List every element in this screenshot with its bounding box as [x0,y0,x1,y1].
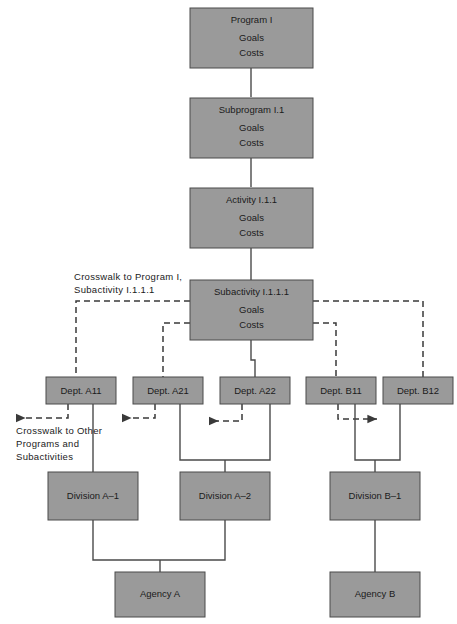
annotation-crosswalk-bottom-line3: Subactivities [16,451,73,462]
node-agency-a[interactable]: Agency A [115,572,205,617]
annotation-crosswalk-bottom-line1: Crosswalk to Other [16,425,102,436]
crosswalk-link-b12 [313,301,423,377]
annotation-crosswalk-top-line2: Subactivity I.1.1.1 [74,284,155,295]
node-division-b1-title: Division B–1 [349,490,402,501]
node-activity-title: Activity I.1.1 [226,194,277,205]
node-agency-a-title: Agency A [140,588,181,599]
node-dept-a21[interactable]: Dept. A21 [133,377,203,404]
node-dept-b11-title: Dept. B11 [320,385,362,396]
crosswalk-link-a11 [76,301,190,377]
node-subprogram-title: Subprogram I.1 [219,104,284,115]
node-subactivity-goals: Goals [239,304,264,315]
crosswalk-arrow-out-b11 [338,404,377,419]
link-subactivity-to-a22 [251,340,255,377]
annotation-crosswalk-top-line1: Crosswalk to Program I, [74,271,182,282]
node-program-goals: Goals [239,32,264,43]
node-dept-a21-title: Dept. A21 [147,385,189,396]
node-program-costs: Costs [239,47,264,58]
node-division-a1[interactable]: Division A–1 [48,472,138,520]
program-structure-diagram: Program I Goals Costs Subprogram I.1 Goa… [0,0,457,624]
link-b11-to-division-b1 [355,404,375,460]
link-division-a1-to-agency-a [93,520,160,560]
node-dept-b11[interactable]: Dept. B11 [306,377,376,404]
link-b12-to-division-b1 [375,404,400,460]
node-activity[interactable]: Activity I.1.1 Goals Costs [190,188,313,248]
node-subactivity-title: Subactivity I.1.1.1 [214,286,289,297]
node-agency-b[interactable]: Agency B [330,572,420,617]
link-a21-to-division-a2 [180,404,225,460]
node-division-a1-title: Division A–1 [67,490,119,501]
node-dept-a22[interactable]: Dept. A22 [220,377,290,404]
node-activity-goals: Goals [239,212,264,223]
link-a22-to-division-a2 [225,404,270,460]
node-dept-b12[interactable]: Dept. B12 [383,377,453,404]
node-program-title: Program I [231,14,273,25]
node-dept-a22-title: Dept. A22 [234,385,276,396]
diagram-canvas: Program I Goals Costs Subprogram I.1 Goa… [0,0,457,624]
node-division-a2-title: Division A–2 [199,490,251,501]
annotation-crosswalk-bottom-line2: Programs and [16,438,79,449]
crosswalk-link-b11 [313,323,336,377]
node-program[interactable]: Program I Goals Costs [190,8,313,68]
node-subprogram-goals: Goals [239,122,264,133]
crosswalk-link-a21 [163,323,190,377]
node-dept-b12-title: Dept. B12 [397,385,439,396]
node-division-a2[interactable]: Division A–2 [180,472,270,520]
annotation-crosswalk-bottom: Crosswalk to Other Programs and Subactiv… [16,425,102,462]
node-subactivity[interactable]: Subactivity I.1.1.1 Goals Costs [190,280,313,340]
crosswalk-arrow-out-a11 [16,404,68,418]
node-subprogram-costs: Costs [239,137,264,148]
node-division-b1[interactable]: Division B–1 [330,472,420,520]
node-dept-a11[interactable]: Dept. A11 [46,377,116,404]
crosswalk-arrow-out-a21 [122,404,155,418]
crosswalk-arrow-out-a22 [209,404,242,421]
node-activity-costs: Costs [239,227,264,238]
node-subactivity-costs: Costs [239,319,264,330]
node-agency-b-title: Agency B [355,588,396,599]
annotation-crosswalk-top: Crosswalk to Program I, Subactivity I.1.… [74,271,182,295]
node-dept-a11-title: Dept. A11 [60,385,101,396]
link-division-a2-to-agency-a [160,520,225,560]
node-subprogram[interactable]: Subprogram I.1 Goals Costs [190,98,313,158]
